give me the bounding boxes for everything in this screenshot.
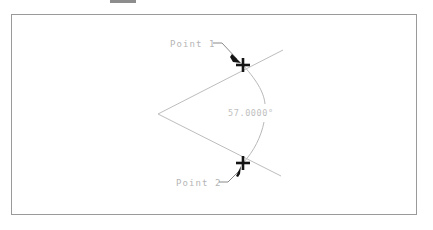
point-2-label: Point 2 <box>176 178 222 188</box>
point-1-marker-icon[interactable] <box>236 58 250 72</box>
angle-leg-upper <box>158 50 283 114</box>
point-2-arrowhead-icon <box>236 166 241 177</box>
point-2-marker-icon[interactable] <box>236 156 250 170</box>
point-1-arrowhead-icon <box>230 54 241 63</box>
screenshot-root: 57.0000° Point 1 Point 2 <box>0 0 433 230</box>
point-1-label: Point 1 <box>170 39 216 49</box>
cad-drawing-canvas[interactable]: 57.0000° Point 1 Point 2 <box>0 0 433 230</box>
angle-dimension-value: 57.0000° <box>228 108 274 118</box>
angle-leg-lower <box>158 114 281 176</box>
